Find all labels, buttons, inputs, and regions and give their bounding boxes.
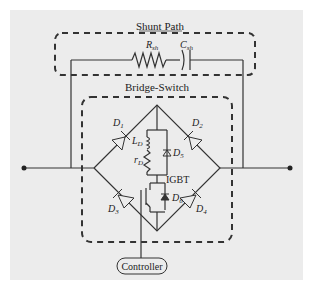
controller-label: Controller xyxy=(121,261,163,272)
label-d3: D3 xyxy=(107,203,119,216)
inductor-ld xyxy=(147,137,150,149)
label-igbt: IGBT xyxy=(166,174,189,185)
resistor-rd xyxy=(144,150,150,172)
resistor-rsh xyxy=(132,53,166,67)
label-d6: D6 xyxy=(171,192,183,205)
bridge-switch-title: Bridge-Switch xyxy=(125,81,190,93)
label-d4: D4 xyxy=(195,203,207,216)
shunt-path-title: Shunt Path xyxy=(136,20,184,32)
label-d1: D1 xyxy=(112,117,124,130)
label-rsh: Rsh xyxy=(145,39,159,52)
label-rd: rD xyxy=(134,154,143,167)
circuit-diagram: Shunt Path Bridge-Switch Rsh Csh D1 D2 D… xyxy=(0,0,314,294)
label-d2: D2 xyxy=(191,117,203,130)
label-ld: LD xyxy=(131,135,143,148)
capacitor-csh-curved-plate xyxy=(182,50,184,70)
terminal-right xyxy=(288,166,293,171)
terminal-left xyxy=(22,166,27,171)
label-d5: D5 xyxy=(172,147,184,160)
diode-d6 xyxy=(161,194,169,200)
